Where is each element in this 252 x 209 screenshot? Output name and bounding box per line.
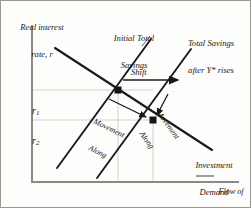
shifted-total-savings-label: Total Savings after Y* rises bbox=[172, 20, 250, 94]
investment-demand-label-line1: Investment bbox=[180, 161, 248, 170]
y-tick-r2: r2 bbox=[16, 113, 39, 165]
x-axis-label-line1: Flow of bbox=[213, 188, 249, 197]
y-axis-label-line2: rate, r bbox=[4, 50, 80, 59]
y-axis-label: Real interest rate, r bbox=[4, 4, 80, 78]
movement-along-left-line2: Along bbox=[69, 136, 125, 169]
loanable-funds-figure: Real interest rate, r r1 r2 I1 I2 Initia… bbox=[0, 0, 252, 209]
x-tick-i2-symbol: I bbox=[164, 208, 167, 209]
x-tick-i2: I2 bbox=[148, 186, 171, 209]
x-axis-label: Flow of funds bbox=[213, 170, 249, 209]
x-tick-i1: I1 bbox=[113, 186, 136, 209]
initial-total-savings-label-line1: Initial Total bbox=[98, 34, 170, 43]
shifted-total-savings-label-line1: Total Savings bbox=[172, 39, 250, 48]
shift-label: Shift bbox=[131, 68, 147, 77]
x-tick-i1-symbol: I bbox=[129, 208, 132, 209]
initial-total-savings-label: Initial Total Savings bbox=[98, 15, 170, 89]
y-axis-label-line1: Real interest bbox=[4, 23, 80, 32]
shifted-total-savings-label-line2: after Y* rises bbox=[172, 66, 250, 75]
y-tick-r2-subscript: 2 bbox=[36, 140, 40, 148]
